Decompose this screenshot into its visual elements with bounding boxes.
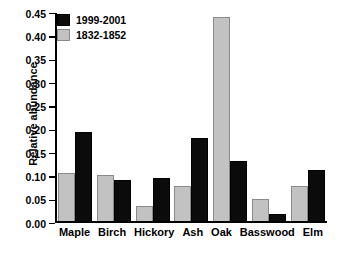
- bar-oak-1832-1852: [213, 17, 230, 221]
- y-axis-tick: 0.25: [49, 106, 55, 107]
- y-axis-tick: 0.10: [49, 176, 55, 177]
- bar-elm-1832-1852: [291, 186, 308, 222]
- y-axis-tick-label: 0.10: [26, 171, 46, 183]
- bar-basswood-1999-2001: [269, 214, 286, 221]
- bar-basswood-1832-1852: [252, 199, 269, 221]
- bar-chart-figure: Relative abundance 0.450.400.350.300.250…: [0, 0, 342, 257]
- bar-elm-1999-2001: [308, 170, 325, 221]
- chart-legend: 1999-20011832-1852: [57, 14, 126, 41]
- y-axis-tick: 0.00: [49, 223, 55, 224]
- x-axis-label-birch: Birch: [98, 226, 126, 238]
- y-axis-tick: 0.45: [49, 13, 55, 14]
- legend-item-1999-2001[interactable]: 1999-2001: [57, 14, 126, 26]
- y-axis-tick-label: 0.05: [26, 194, 46, 206]
- bar-ash-1999-2001: [191, 138, 208, 222]
- y-axis-tick-label: 0.15: [26, 148, 46, 160]
- x-axis-label-elm: Elm: [303, 226, 323, 238]
- y-axis-tick: 0.20: [49, 130, 55, 131]
- legend-swatch-1832-1852: [57, 29, 70, 41]
- bar-birch-1999-2001: [114, 180, 131, 222]
- legend-item-1832-1852[interactable]: 1832-1852: [57, 29, 126, 41]
- y-axis-tick-label: 0.35: [26, 54, 46, 66]
- x-axis-label-maple: Maple: [59, 226, 90, 238]
- legend-swatch-1999-2001: [57, 14, 70, 26]
- bar-group-elm: [291, 13, 325, 221]
- y-axis-tick-label: 0.40: [26, 31, 46, 43]
- bar-groups: [56, 13, 327, 221]
- y-axis-tick-label: 0.25: [26, 101, 46, 113]
- y-axis-tick-label: 0.45: [26, 8, 46, 20]
- y-axis-tick: 0.30: [49, 83, 55, 84]
- bar-hickory-1999-2001: [153, 178, 170, 221]
- bar-oak-1999-2001: [230, 161, 247, 222]
- x-axis-label-ash: Ash: [182, 226, 203, 238]
- y-axis-tick: 0.35: [49, 60, 55, 61]
- legend-label-1999-2001: 1999-2001: [76, 14, 126, 26]
- x-axis-line: [55, 221, 327, 223]
- bar-maple-1832-1852: [58, 173, 75, 222]
- bar-group-birch: [97, 13, 131, 221]
- x-axis-label-hickory: Hickory: [134, 226, 174, 238]
- plot-area: 0.450.400.350.300.250.200.150.100.050.00: [55, 13, 327, 223]
- x-axis-label-oak: Oak: [211, 226, 232, 238]
- bar-group-basswood: [252, 13, 286, 221]
- bar-ash-1832-1852: [174, 186, 191, 222]
- bar-group-hickory: [136, 13, 170, 221]
- y-axis-tick: 0.40: [49, 36, 55, 37]
- bar-birch-1832-1852: [97, 175, 114, 222]
- bar-group-oak: [213, 13, 247, 221]
- y-axis-tick: 0.05: [49, 200, 55, 201]
- bar-hickory-1832-1852: [136, 206, 153, 221]
- x-axis-tick-labels: MapleBirchHickoryAshOakBasswoodElm: [55, 226, 327, 238]
- bar-group-ash: [174, 13, 208, 221]
- bar-maple-1999-2001: [75, 132, 92, 221]
- y-axis-tick: 0.15: [49, 153, 55, 154]
- y-axis-tick-label: 0.30: [26, 78, 46, 90]
- y-axis-tick-label: 0.00: [26, 218, 46, 230]
- bar-group-maple: [58, 13, 92, 221]
- legend-label-1832-1852: 1832-1852: [76, 29, 126, 41]
- x-axis-label-basswood: Basswood: [240, 226, 295, 238]
- y-axis-tick-label: 0.20: [26, 124, 46, 136]
